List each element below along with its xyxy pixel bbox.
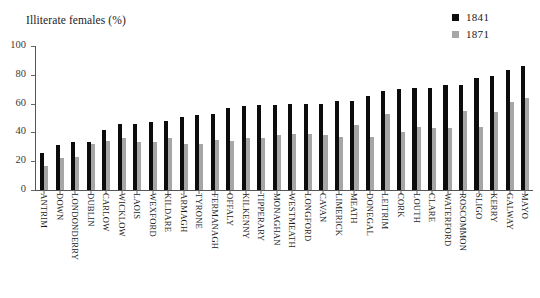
bar-1871	[277, 135, 281, 190]
x-axis-label-cell: WICKLOW	[114, 193, 130, 273]
x-axis-label: LONDONDERRY	[70, 193, 79, 260]
x-axis-label: CLARE	[427, 193, 436, 222]
bar-group	[517, 46, 533, 190]
x-axis-label-cell: KILDARE	[161, 193, 177, 273]
bar-group	[331, 46, 347, 190]
bar-1871	[184, 144, 188, 190]
bar-group	[440, 46, 456, 190]
bar-group	[471, 46, 487, 190]
bar-group	[129, 46, 145, 190]
bar-group	[269, 46, 285, 190]
x-axis-label-cell: GALWAY	[502, 193, 518, 273]
chart-legend: 1841 1871	[452, 10, 530, 44]
bar-1871	[510, 102, 514, 190]
x-axis-label: ANTRIM	[39, 193, 48, 228]
bar-group	[161, 46, 177, 190]
x-axis-label: MONAGHAN	[272, 193, 281, 246]
x-axis-label-cell: MONAGHAN	[269, 193, 285, 273]
caption-remnant	[34, 0, 334, 4]
bar-group	[409, 46, 425, 190]
legend-item-1871: 1871	[452, 27, 530, 42]
legend-item-1841: 1841	[452, 10, 530, 25]
x-axis-label-cell: DOWN	[52, 193, 68, 273]
bar-group	[455, 46, 471, 190]
x-axis-label-cell: ANTRIM	[36, 193, 52, 273]
x-axis-label-cell: LONGFORD	[300, 193, 316, 273]
x-axis-label: CARLOW	[101, 193, 110, 231]
bar-1871	[106, 141, 110, 190]
bar-1871	[494, 112, 498, 190]
x-axis-label: WICKLOW	[117, 193, 126, 237]
bar-1871	[417, 127, 421, 190]
bar-1871	[75, 157, 79, 190]
bar-1871	[323, 135, 327, 190]
x-axis-label: TYRONE	[194, 193, 203, 229]
x-axis-label: LONGFORD	[303, 193, 312, 241]
bar-1871	[292, 134, 296, 190]
bar-1871	[432, 128, 436, 190]
x-axis-label-cell: CARLOW	[98, 193, 114, 273]
bar-1871	[153, 142, 157, 190]
y-axis-tick: 60	[31, 104, 35, 105]
legend-swatch-1871	[452, 31, 459, 38]
x-axis-label-cell: SLIGO	[471, 193, 487, 273]
x-axis-label: KILDARE	[163, 193, 172, 232]
legend-label-1841: 1841	[466, 12, 489, 23]
bar-1871	[122, 138, 126, 190]
y-axis-tick-label: 60	[16, 97, 27, 108]
bar-group	[316, 46, 332, 190]
bar-1871	[230, 141, 234, 190]
chart-axis-title: Illiterate females (%)	[26, 14, 126, 26]
bar-group	[114, 46, 130, 190]
x-axis-label: WATERFORD	[442, 193, 451, 246]
bar-group	[223, 46, 239, 190]
bar-1871	[246, 138, 250, 190]
x-axis-label-cell: CAVAN	[316, 193, 332, 273]
bar-group	[176, 46, 192, 190]
bar-group	[300, 46, 316, 190]
bar-group	[67, 46, 83, 190]
x-axis-label-cell: WESTMEATH	[285, 193, 301, 273]
bar-group	[393, 46, 409, 190]
bar-group	[145, 46, 161, 190]
x-axis-label: SLIGO	[473, 193, 482, 219]
bar-1871	[448, 128, 452, 190]
x-axis-label: MEATH	[349, 193, 358, 224]
bar-group	[502, 46, 518, 190]
legend-label-1871: 1871	[466, 29, 489, 40]
x-axis-label: KERRY	[489, 193, 498, 223]
chart-figure: Illiterate females (%) 1841 1871 0204060…	[0, 0, 540, 298]
x-axis-label-cell: DONEGAL	[362, 193, 378, 273]
x-axis-label: LOUTH	[411, 193, 420, 223]
bar-1871	[354, 125, 358, 190]
plot-area: 020406080100	[35, 46, 533, 190]
bar-group	[378, 46, 394, 190]
x-axis-label-cell: TIPPERARY	[254, 193, 270, 273]
x-axis-label-cell: ARMAGH	[176, 193, 192, 273]
bar-1871	[339, 137, 343, 190]
y-axis-tick-label: 20	[16, 154, 27, 165]
bar-group	[238, 46, 254, 190]
bar-1871	[199, 144, 203, 190]
x-axis-label: CAVAN	[318, 193, 327, 222]
bar-group	[207, 46, 223, 190]
bar-1871	[525, 98, 529, 190]
y-axis-tick-label: 40	[16, 125, 27, 136]
x-axis-label: MAYO	[520, 193, 529, 219]
bar-group	[424, 46, 440, 190]
x-axis-label-cell: ROSCOMMON	[455, 193, 471, 273]
bar-1871	[385, 114, 389, 190]
bar-1871	[44, 166, 48, 190]
bar-1871	[479, 127, 483, 190]
bar-1871	[370, 137, 374, 190]
x-axis-label-cell: WATERFORD	[440, 193, 456, 273]
y-axis-tick: 20	[31, 161, 35, 162]
bar-group	[83, 46, 99, 190]
x-axis-label-cell: MEATH	[347, 193, 363, 273]
bar-1871	[91, 144, 95, 190]
bar-1871	[168, 138, 172, 190]
bar-1871	[137, 142, 141, 190]
x-axis-label-cell: OFFALY	[223, 193, 239, 273]
bar-1871	[401, 132, 405, 190]
bar-group	[285, 46, 301, 190]
